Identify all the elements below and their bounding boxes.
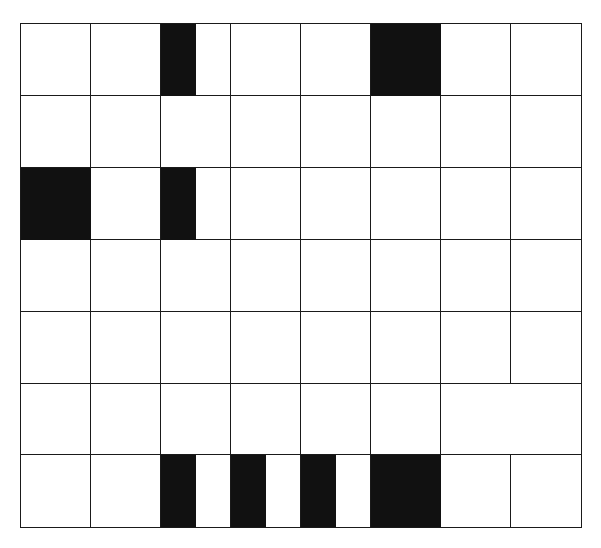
grid-cell [90,383,162,456]
grid-cell [510,454,582,527]
grid-cell [160,311,232,384]
grid-cell [90,311,162,384]
grid-cell [300,239,372,312]
grid-cell [90,454,162,527]
grid-cell [160,95,232,168]
grid-cell [370,167,442,240]
grid-cell [440,23,512,96]
grid-cell [20,311,92,384]
grid-cell [510,311,582,384]
half-filled-cell [161,24,196,96]
grid-cell [510,167,582,240]
grid-cell [370,95,442,168]
grid-cell [510,239,582,312]
grid-cell [230,95,302,168]
filled-cell [21,168,91,240]
grid-cell [20,383,92,456]
grid-cell [300,23,372,96]
grid-cell [300,311,372,384]
grid-cell [300,167,372,240]
grid-cell [440,311,512,384]
grid-cell [440,383,582,456]
grid-cell [160,383,232,456]
grid-cell [370,311,442,384]
half-filled-cell [231,455,266,527]
filled-cell [371,455,441,527]
shaded-grid-diagram [21,24,581,527]
grid-cell [370,383,442,456]
grid-cell [20,23,92,96]
grid-cell [20,95,92,168]
grid-cell [300,383,372,456]
grid-cell [20,239,92,312]
grid-cell [90,167,162,240]
grid-cell [440,167,512,240]
half-filled-cell [161,455,196,527]
grid-cell [300,95,372,168]
grid-cell [90,239,162,312]
half-filled-cell [161,168,196,240]
grid-cell [20,454,92,527]
grid-cell [230,383,302,456]
grid-cell [90,23,162,96]
grid-cell [230,239,302,312]
grid-cell [440,454,512,527]
grid-cell [230,23,302,96]
filled-cell [371,24,441,96]
grid-cell [440,239,512,312]
grid-cell [370,239,442,312]
grid-cell [230,167,302,240]
grid-cell [160,239,232,312]
half-filled-cell [301,455,336,527]
grid-cell [440,95,512,168]
grid-cell [510,23,582,96]
grid-cell [90,95,162,168]
grid-cell [230,311,302,384]
grid-cell [510,95,582,168]
